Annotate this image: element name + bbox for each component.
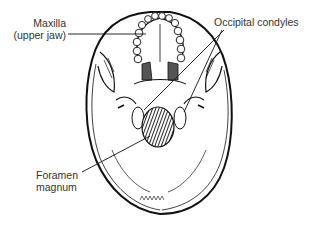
label-occipital-condyles: Occipital condyles bbox=[214, 16, 299, 28]
occipital-condyle-right bbox=[174, 107, 186, 129]
label-maxilla-sub: (upper jaw) bbox=[2, 29, 66, 41]
label-maxilla: Maxilla bbox=[18, 17, 66, 29]
label-maxilla-line2: (upper jaw) bbox=[2, 29, 66, 41]
label-occipital-condyles-line1: Occipital condyles bbox=[214, 16, 299, 28]
label-maxilla-line1: Maxilla bbox=[18, 17, 66, 29]
label-foramen-magnum: Foramen magnum bbox=[36, 169, 78, 193]
condyle-leader-2 bbox=[144, 30, 224, 110]
foramen-leader bbox=[82, 136, 150, 172]
label-foramen-magnum-line2: magnum bbox=[36, 181, 78, 193]
foramen-magnum bbox=[142, 107, 174, 147]
label-foramen-magnum-line1: Foramen bbox=[36, 169, 78, 181]
